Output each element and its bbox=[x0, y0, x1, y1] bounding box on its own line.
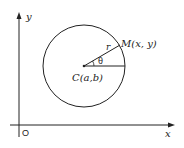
point-m-label: M(x, y) bbox=[120, 38, 157, 49]
angle-label: θ bbox=[98, 56, 103, 66]
radius-label: r bbox=[106, 42, 111, 52]
y-axis-label: y bbox=[25, 11, 32, 22]
origin-label: O bbox=[22, 128, 29, 138]
circle-parametric-diagram: y x O θ r M(x, y) C(a,b) bbox=[0, 0, 184, 148]
y-axis-arrow-icon bbox=[17, 12, 22, 19]
center-label: C(a,b) bbox=[72, 72, 103, 83]
x-axis-arrow-icon bbox=[168, 123, 175, 128]
angle-arc bbox=[93, 61, 94, 66]
x-axis-label: x bbox=[165, 128, 171, 139]
